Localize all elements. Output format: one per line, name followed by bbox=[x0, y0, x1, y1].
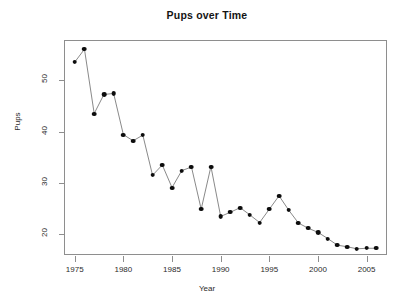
data-point bbox=[364, 246, 369, 250]
chart-figure: Pups over Time 2030405019751980198519901… bbox=[0, 0, 414, 306]
y-axis-tick-mark bbox=[59, 183, 65, 184]
x-axis-tick-label: 2005 bbox=[352, 265, 382, 274]
y-axis-tick-label: 20 bbox=[40, 222, 49, 244]
x-axis-tick-mark bbox=[123, 256, 124, 262]
data-point bbox=[170, 185, 175, 189]
x-axis-tick-label: 2000 bbox=[303, 265, 333, 274]
x-axis-tick-mark bbox=[318, 256, 319, 262]
data-point bbox=[141, 133, 146, 137]
y-axis-tick-mark bbox=[59, 80, 65, 81]
data-point bbox=[150, 173, 155, 177]
x-axis-tick-label: 1985 bbox=[157, 265, 187, 274]
x-axis-tick-label: 1980 bbox=[108, 265, 138, 274]
y-axis-label: Pups bbox=[13, 92, 22, 152]
x-axis-tick-label: 1975 bbox=[60, 265, 90, 274]
data-point bbox=[218, 214, 223, 218]
data-point bbox=[111, 91, 116, 95]
data-point bbox=[355, 247, 360, 251]
x-axis-tick-label: 1995 bbox=[254, 265, 284, 274]
data-point bbox=[335, 243, 340, 247]
data-point bbox=[238, 206, 243, 210]
data-point bbox=[257, 220, 262, 224]
data-point bbox=[228, 210, 233, 214]
data-point bbox=[306, 226, 311, 230]
y-axis-tick-mark bbox=[59, 132, 65, 133]
data-point bbox=[72, 60, 77, 64]
y-axis-tick-mark bbox=[59, 234, 65, 235]
x-axis-tick-mark bbox=[269, 256, 270, 262]
data-point bbox=[82, 47, 87, 51]
data-point bbox=[248, 213, 253, 217]
data-point-layer bbox=[65, 41, 386, 254]
plot-area: 203040501975198019851990199520002005 bbox=[64, 40, 387, 255]
data-point bbox=[345, 245, 350, 249]
x-axis-tick-mark bbox=[75, 256, 76, 262]
data-point bbox=[131, 139, 136, 143]
data-point bbox=[277, 194, 282, 198]
data-point bbox=[92, 111, 97, 115]
data-point bbox=[286, 208, 291, 212]
data-point bbox=[316, 230, 321, 234]
x-axis-tick-label: 1990 bbox=[206, 265, 236, 274]
data-point bbox=[296, 221, 301, 225]
y-axis-tick-label: 30 bbox=[40, 170, 49, 192]
data-point bbox=[325, 236, 330, 240]
x-axis-tick-mark bbox=[221, 256, 222, 262]
y-axis-tick-label: 40 bbox=[40, 119, 49, 141]
data-point bbox=[102, 92, 107, 96]
x-axis-tick-mark bbox=[172, 256, 173, 262]
data-point bbox=[209, 164, 214, 168]
chart-title: Pups over Time bbox=[0, 9, 414, 21]
data-point bbox=[160, 163, 165, 167]
data-point bbox=[121, 133, 126, 137]
x-axis-tick-mark bbox=[367, 256, 368, 262]
x-axis-label: Year bbox=[0, 284, 414, 293]
data-point bbox=[179, 169, 184, 173]
data-point bbox=[374, 246, 379, 250]
data-point bbox=[267, 207, 272, 211]
data-point bbox=[189, 165, 194, 169]
data-point bbox=[199, 207, 204, 211]
y-axis-tick-label: 50 bbox=[40, 68, 49, 90]
